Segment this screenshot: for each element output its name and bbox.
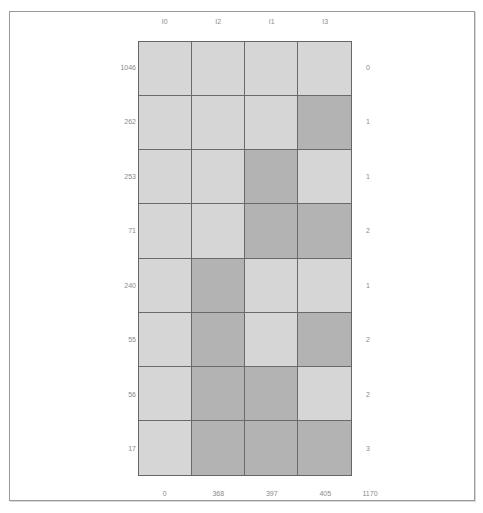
grid-cell	[192, 96, 245, 150]
grid-cell	[192, 421, 245, 475]
row-count-2: 253	[100, 172, 136, 182]
grid-cell	[192, 42, 245, 96]
grid-cell	[139, 96, 192, 150]
grid-cell	[298, 42, 351, 96]
row-count-4: 240	[100, 281, 136, 291]
grid-cell	[245, 421, 298, 475]
grid-cell	[298, 150, 351, 204]
grid-cell	[245, 259, 298, 313]
grid-cell	[192, 204, 245, 258]
grid-cell	[139, 421, 192, 475]
row-degree-2: 1	[360, 172, 376, 182]
grid-cell	[245, 367, 298, 421]
grid-cell	[139, 313, 192, 367]
grid-cell	[298, 421, 351, 475]
row-degree-7: 3	[360, 444, 376, 454]
column-total-0: 0	[138, 489, 192, 499]
column-total-2: 397	[245, 489, 299, 499]
grid-cell	[192, 150, 245, 204]
grid-cell	[245, 313, 298, 367]
grid-cell	[245, 150, 298, 204]
grid-cell	[245, 204, 298, 258]
grid-cell	[139, 367, 192, 421]
grand-total: 1170	[350, 489, 390, 499]
row-count-0: 1046	[100, 63, 136, 73]
column-header-3: I3	[299, 17, 353, 27]
grid-cell	[245, 42, 298, 96]
grid-cell	[298, 367, 351, 421]
grid-cell	[192, 367, 245, 421]
column-total-3: 405	[299, 489, 353, 499]
column-header-0: I0	[138, 17, 192, 27]
row-count-5: 55	[100, 335, 136, 345]
grid-cell	[139, 259, 192, 313]
column-header-2: I1	[245, 17, 299, 27]
grid-cell	[139, 150, 192, 204]
grid-cell	[298, 204, 351, 258]
grid-cell	[298, 313, 351, 367]
grid-cell	[245, 96, 298, 150]
row-degree-0: 0	[360, 63, 376, 73]
row-count-3: 71	[100, 226, 136, 236]
row-degree-4: 1	[360, 281, 376, 291]
row-degree-3: 2	[360, 226, 376, 236]
grid-cell	[298, 96, 351, 150]
row-degree-6: 2	[360, 390, 376, 400]
column-total-1: 368	[192, 489, 246, 499]
row-count-7: 17	[100, 444, 136, 454]
grid-cell	[298, 259, 351, 313]
pattern-grid	[138, 41, 352, 476]
column-header-1: I2	[192, 17, 246, 27]
grid-cell	[139, 42, 192, 96]
grid-cell	[192, 259, 245, 313]
row-degree-1: 1	[360, 117, 376, 127]
row-count-6: 56	[100, 390, 136, 400]
grid-cell	[192, 313, 245, 367]
row-count-1: 262	[100, 117, 136, 127]
grid-cell	[139, 204, 192, 258]
row-degree-5: 2	[360, 335, 376, 345]
